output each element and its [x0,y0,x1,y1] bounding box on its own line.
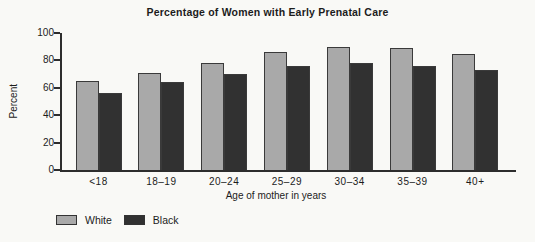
bar-black [475,70,498,170]
legend-label-black: Black [153,214,179,226]
bar-black [161,82,184,170]
x-tick-label: <18 [89,176,107,187]
bar-black [413,66,436,170]
plot-area: 020406080100<1818–1920–2425–2930–3435–39… [60,33,516,172]
legend-swatch-white [56,215,77,225]
x-tick-label: 25–29 [272,176,302,187]
figure: Percentage of Women with Early Prenatal … [0,0,535,242]
bar-black [99,93,122,170]
bar-white [138,73,161,170]
x-tick-label: 40+ [466,176,484,187]
bar-white [264,52,287,170]
bar-black [287,66,310,170]
bar-white [327,47,350,170]
x-tick-label: 30–34 [335,176,365,187]
y-tick [54,169,60,171]
chart-title: Percentage of Women with Early Prenatal … [0,6,535,18]
y-tick [54,87,60,89]
y-tick-label: 20 [43,137,54,149]
y-tick-label: 80 [43,54,54,66]
legend: White Black [56,214,179,226]
y-axis-label: Percent [8,84,19,118]
bar-white [201,63,224,170]
y-tick-label: 60 [43,82,54,94]
x-tick-label: 35–39 [397,176,427,187]
legend-swatch-black [124,215,145,225]
x-tick-label: 18–19 [146,176,176,187]
y-tick [54,59,60,61]
bar-white [76,81,99,170]
bar-black [350,63,373,170]
y-tick-label: 0 [48,164,54,176]
bar-white [390,48,413,170]
y-tick-label: 40 [43,109,54,121]
y-tick [54,142,60,144]
bar-white [452,54,475,170]
x-tick-label: 20–24 [209,176,239,187]
bar-black [224,74,247,170]
y-tick-label: 100 [37,27,54,39]
legend-label-white: White [85,214,112,226]
y-tick [54,114,60,116]
y-tick [54,32,60,34]
x-axis-label: Age of mother in years [156,190,396,201]
